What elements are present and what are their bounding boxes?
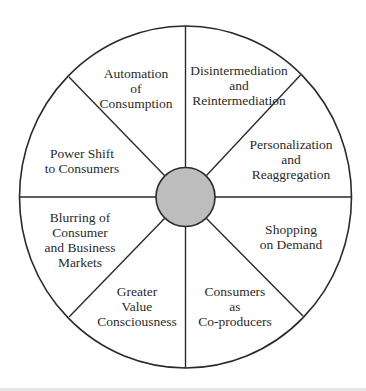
segment-label-disintermediation: Disintermediation and Reintermediation [190, 63, 287, 108]
segment-label-personalization: Personalization and Reaggregation [249, 137, 332, 182]
segment-label-consumers-co-producers: Consumers as Co-producers [198, 284, 271, 329]
wheel-diagram [0, 0, 366, 391]
label-line: as [198, 299, 271, 314]
label-line: Consumers [198, 284, 271, 299]
label-line: Consumer [45, 225, 116, 240]
label-line: Consciousness [97, 314, 177, 329]
label-line: Reaggregation [249, 167, 332, 182]
segment-label-blurring-markets: Blurring of Consumer and Business Market… [45, 210, 116, 270]
label-line: Reintermediation [190, 93, 287, 108]
label-line: and [190, 78, 287, 93]
label-line: to Consumers [45, 161, 120, 176]
segment-label-power-shift: Power Shift to Consumers [45, 146, 120, 176]
label-line: Blurring of [45, 210, 116, 225]
label-line: and Business [45, 240, 116, 255]
label-line: Personalization [249, 137, 332, 152]
label-line: of [100, 81, 173, 96]
label-line: Disintermediation [190, 63, 287, 78]
label-line: Co-producers [198, 314, 271, 329]
segment-label-shopping-on-demand: Shopping on Demand [260, 222, 323, 252]
label-line: Value [97, 299, 177, 314]
label-line: Consumption [100, 96, 173, 111]
label-line: on Demand [260, 237, 323, 252]
label-line: Greater [97, 284, 177, 299]
label-line: Shopping [260, 222, 323, 237]
center-hub [156, 168, 215, 227]
label-line: and [249, 152, 332, 167]
segment-label-automation: Automation of Consumption [100, 66, 173, 111]
label-line: Power Shift [45, 146, 120, 161]
label-line: Automation [100, 66, 173, 81]
label-line: Markets [45, 255, 116, 270]
segment-label-greater-value: Greater Value Consciousness [97, 284, 177, 329]
